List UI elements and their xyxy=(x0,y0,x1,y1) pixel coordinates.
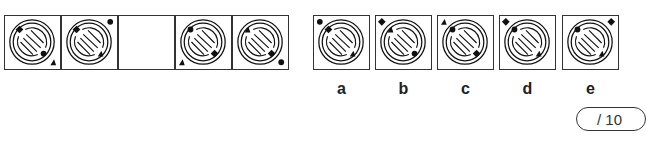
sequence-figure-5 xyxy=(232,15,289,70)
sequence-figure-4 xyxy=(175,15,232,70)
score-input[interactable]: / 10 xyxy=(576,107,646,131)
option-b-figure[interactable] xyxy=(375,15,432,70)
option-d-label[interactable]: d xyxy=(499,80,556,98)
option-d-figure[interactable] xyxy=(499,15,556,70)
option-c-label[interactable]: c xyxy=(437,80,494,98)
option-e-label[interactable]: e xyxy=(562,80,619,98)
option-e-figure[interactable] xyxy=(562,15,619,70)
sequence-figure-2 xyxy=(61,15,118,70)
score-total: / 10 xyxy=(597,111,622,128)
sequence-figure-1 xyxy=(4,15,61,70)
option-b-label[interactable]: b xyxy=(375,80,432,98)
option-a-figure[interactable] xyxy=(313,15,370,70)
sequence-figure-3-blank xyxy=(118,15,175,70)
option-c-figure[interactable] xyxy=(437,15,494,70)
option-a-label[interactable]: a xyxy=(313,80,370,98)
